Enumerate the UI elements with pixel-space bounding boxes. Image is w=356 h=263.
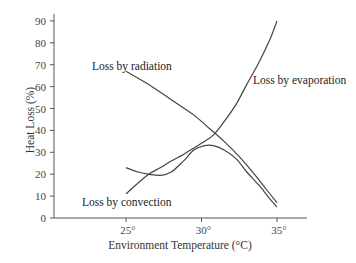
curves <box>126 21 277 207</box>
x-tick-label: 25° <box>120 224 135 236</box>
x-axis-title: Environment Temperature (°C) <box>108 239 252 252</box>
radiation-curve <box>126 71 277 202</box>
y-tick-label: 50 <box>35 103 47 115</box>
y-tick-label: 10 <box>35 190 47 202</box>
axes <box>54 14 307 218</box>
x-tick-label: 35° <box>271 224 286 236</box>
convection-label: Loss by convection <box>82 196 172 209</box>
y-tick-label: 20 <box>35 168 47 180</box>
x-tick-label: 30° <box>196 224 211 236</box>
y-tick-label: 80 <box>35 37 47 49</box>
y-tick-label: 40 <box>35 124 47 136</box>
evaporation-label: Loss by evaporation <box>253 74 347 87</box>
y-tick-label: 70 <box>35 59 47 71</box>
y-tick-label: 0 <box>41 212 47 224</box>
evaporation-curve <box>126 21 277 194</box>
radiation-label: Loss by radiation <box>92 60 172 73</box>
y-ticks: 0102030405060708090 <box>35 15 54 224</box>
x-ticks: 25°30°35° <box>120 218 286 236</box>
y-axis-title: Heat Loss (%) <box>24 87 37 154</box>
y-tick-label: 60 <box>35 81 47 93</box>
y-tick-label: 30 <box>35 146 47 158</box>
heat-loss-chart: 0102030405060708090 25°30°35° Loss by ra… <box>0 0 356 263</box>
y-tick-label: 90 <box>35 15 47 27</box>
